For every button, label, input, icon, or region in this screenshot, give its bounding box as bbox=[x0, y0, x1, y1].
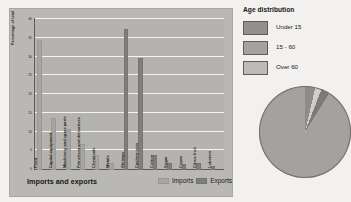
age-distribution-panel: Age distribution Under 1515 - 60Over 60 bbox=[243, 2, 327, 202]
legend-swatch-exports bbox=[196, 178, 207, 184]
chart-footer: Imports and exports Imports Exports bbox=[10, 170, 232, 196]
bar-group: Petroleum and derivatives bbox=[80, 19, 85, 170]
x-tick-label: Capital equipment bbox=[48, 133, 53, 168]
bar-imports bbox=[37, 40, 42, 170]
age-distribution-legend: Under 1515 - 60Over 60 bbox=[243, 19, 327, 79]
age-legend-row: 15 - 60 bbox=[243, 39, 327, 59]
x-tick-label: Petroleum and derivatives bbox=[76, 117, 81, 168]
bar-group: Cotton bbox=[153, 19, 158, 170]
bar-group: Shrimps bbox=[124, 19, 129, 170]
x-tick-label: Cashew nuts bbox=[134, 143, 139, 168]
x-tick-label: Food bbox=[33, 158, 38, 168]
x-tick-label: Sugar bbox=[163, 156, 168, 168]
chart-legend: Imports Exports bbox=[158, 177, 232, 184]
x-tick-label: Chemicals bbox=[91, 148, 96, 168]
y-axis-title: Percentage of total bbox=[11, 11, 15, 45]
bar-group: Cashew nuts bbox=[138, 19, 143, 170]
bar-group: Copra bbox=[182, 19, 187, 170]
x-tick-label: Metals bbox=[105, 155, 110, 168]
legend-label-exports: Exports bbox=[210, 177, 232, 184]
age-legend-label: 15 - 60 bbox=[276, 43, 295, 50]
bar-group: Sugar bbox=[167, 19, 172, 170]
bar-group: Citrus fruit bbox=[196, 19, 201, 170]
x-tick-label: Cotton bbox=[149, 155, 154, 168]
age-legend-label: Over 60 bbox=[276, 63, 298, 70]
age-distribution-pie-chart bbox=[259, 86, 351, 178]
bar-group: Food bbox=[37, 19, 42, 170]
bar-group: Metals bbox=[109, 19, 114, 170]
x-tick-label: Copra bbox=[178, 156, 183, 168]
y-tick-label: 20 bbox=[28, 92, 32, 96]
y-axis-tick-labels: 0510152025303540 bbox=[20, 18, 33, 171]
age-legend-swatch bbox=[243, 41, 268, 55]
y-tick-label: 30 bbox=[28, 55, 32, 59]
imports-exports-chart-card: 0510152025303540 Percentage of total Foo… bbox=[10, 9, 232, 196]
x-tick-label: Shrimps bbox=[120, 152, 125, 168]
x-tick-label: Lobsters bbox=[207, 151, 212, 168]
y-tick-label: 40 bbox=[28, 17, 32, 21]
age-legend-swatch bbox=[243, 61, 268, 75]
legend-label-imports: Imports bbox=[172, 177, 193, 184]
age-legend-swatch bbox=[243, 21, 268, 35]
x-tick-label: Machinery and spare parts bbox=[62, 116, 67, 168]
bar-exports bbox=[124, 29, 129, 171]
age-legend-label: Under 15 bbox=[276, 23, 301, 30]
y-tick-label: 25 bbox=[28, 73, 32, 77]
x-tick-label: Citrus fruit bbox=[192, 147, 197, 168]
y-tick-label: 5 bbox=[30, 148, 32, 152]
age-legend-row: Over 60 bbox=[243, 59, 327, 79]
chart-title: Imports and exports bbox=[27, 177, 97, 186]
age-distribution-title: Age distribution bbox=[243, 6, 294, 13]
age-legend-row: Under 15 bbox=[243, 19, 327, 39]
y-tick-label: 15 bbox=[28, 111, 32, 115]
y-tick-label: 35 bbox=[28, 36, 32, 40]
bar-group: Chemicals bbox=[95, 19, 100, 170]
y-tick-label: 10 bbox=[28, 130, 32, 134]
bar-group: Capital equipment bbox=[51, 19, 56, 170]
legend-swatch-imports bbox=[158, 178, 169, 184]
bar-imports bbox=[80, 144, 85, 170]
bar-group: Machinery and spare parts bbox=[66, 19, 71, 170]
bar-series-container: FoodCapital equipmentMachinery and spare… bbox=[35, 19, 223, 170]
bar-group: Lobsters bbox=[211, 19, 216, 170]
